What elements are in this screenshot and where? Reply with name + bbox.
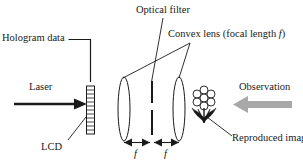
reproduced-image-leader <box>207 117 232 136</box>
convex-lens-left <box>118 77 130 141</box>
reproduced-image-flower <box>192 86 216 123</box>
label-convex-lens-prefix: Convex lens (focal length <box>168 28 279 39</box>
label-convex-lens: Convex lens (focal length f) <box>168 29 285 40</box>
convex-lens-right <box>173 77 185 141</box>
hologram-data-leader <box>69 40 91 83</box>
optical-filter-leader <box>152 18 164 82</box>
label-observation: Observation <box>239 82 290 93</box>
focal-length-dimension-right <box>154 139 179 147</box>
holography-setup-diagram: Hologram data Laser LCD Optical filter C… <box>0 0 303 168</box>
label-laser: Laser <box>29 82 52 93</box>
label-lcd: LCD <box>41 142 62 153</box>
laser-arrow <box>14 99 87 110</box>
convex-lens-leaders <box>123 43 190 78</box>
label-focal-length-right: f <box>164 149 167 160</box>
label-hologram-data: Hologram data <box>2 33 65 44</box>
lcd-leader <box>68 117 86 140</box>
lcd-panel <box>87 86 95 134</box>
focal-length-dimension-left <box>124 139 150 147</box>
observation-arrow <box>233 96 292 113</box>
label-focal-length-left: f <box>134 149 137 160</box>
label-reproduced-image: Reproduced image <box>232 133 303 144</box>
label-convex-lens-suffix: ) <box>282 28 286 39</box>
label-optical-filter: Optical filter <box>136 5 190 16</box>
